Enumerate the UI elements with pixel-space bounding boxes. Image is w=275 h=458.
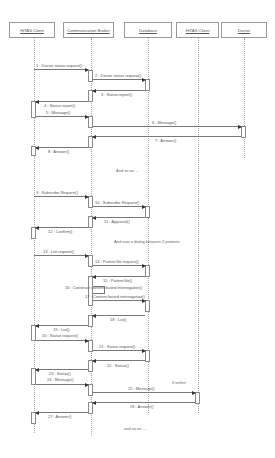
lifeline-doctor	[244, 38, 245, 158]
arrow-right-icon	[85, 383, 89, 387]
actor-label: HiTAS Client	[20, 28, 44, 33]
message-label-9: 9 : Subscribe Request()	[36, 190, 78, 195]
message-arrow-23	[36, 369, 88, 370]
message-arrow-25	[93, 392, 195, 393]
message-label-19: 19 : List()	[53, 327, 70, 332]
message-label-11: 11 : Approval()	[104, 219, 130, 224]
arrow-right-icon	[142, 349, 146, 353]
message-arrow-26	[93, 402, 195, 403]
arrow-left-icon	[92, 275, 96, 279]
arrow-right-icon	[85, 339, 89, 343]
actor-label: HiTAS Client	[186, 28, 210, 33]
message-label-22: 22 : Status()	[107, 363, 129, 368]
message-label-21: 21 : Status request()	[99, 344, 135, 349]
message-arrow-24	[36, 384, 88, 385]
arrow-left-icon	[35, 324, 39, 328]
message-arrow-8	[36, 147, 88, 148]
message-label-14: 14 : Patient file request()	[95, 259, 139, 264]
message-arrow-14	[93, 265, 145, 266]
arrow-left-icon	[35, 368, 39, 372]
message-label-20: 20 : Status request()	[42, 333, 78, 338]
message-label-4: 4 : Status report()	[44, 103, 75, 108]
actor-database: Database	[124, 22, 172, 38]
arrow-right-icon	[238, 125, 242, 129]
note-if-online: If online	[172, 380, 186, 385]
message-label-1: 1 : Doctor status request()	[36, 63, 82, 68]
message-arrow-6	[93, 126, 241, 127]
arrow-right-icon	[142, 78, 146, 82]
message-arrow-12	[36, 227, 88, 228]
arrow-left-icon	[92, 216, 96, 220]
arrow-right-icon	[85, 254, 89, 258]
message-label-24: 24 : Message()	[47, 377, 74, 382]
message-label-3: 3 : Status report()	[101, 92, 132, 97]
message-arrow-5	[36, 116, 88, 117]
arrow-right-icon	[85, 195, 89, 199]
message-label-13: 13 : List request()	[43, 249, 74, 254]
message-label-16: 16 : Construct content-based interrogati…	[65, 285, 142, 290]
arrow-right-icon	[142, 205, 146, 209]
note-and-so-on-2: and so on ...	[124, 426, 146, 431]
message-label-26: 26 : Answer()	[130, 404, 154, 409]
message-arrow-18	[93, 315, 145, 316]
message-arrow-1	[34, 69, 88, 70]
arrow-left-icon	[35, 146, 39, 150]
message-arrow-7	[93, 136, 241, 137]
arrow-right-icon	[85, 68, 89, 72]
message-arrow-2	[93, 79, 145, 80]
message-arrow-9	[34, 196, 88, 197]
message-label-15: 15 : Patient file()	[103, 278, 132, 283]
message-arrow-22	[93, 360, 145, 361]
message-label-8: 8 : Answer()	[48, 149, 69, 154]
actor-hitas-client-2: HiTAS Client	[176, 22, 219, 38]
actor-label: Database	[139, 28, 157, 33]
arrow-left-icon	[92, 314, 96, 318]
arrow-left-icon	[92, 401, 96, 405]
message-label-7: 7 : Answer()	[155, 138, 176, 143]
arrow-right-icon	[142, 264, 146, 268]
message-label-27: 27 : Answer()	[48, 414, 72, 419]
message-label-10: 10 : Subscribe Request()	[95, 200, 139, 205]
arrow-right-icon	[142, 299, 146, 303]
message-arrow-27	[36, 412, 88, 413]
message-arrow-21	[93, 350, 145, 351]
arrow-left-icon	[92, 135, 96, 139]
message-label-5: 5 : Message()	[46, 110, 70, 115]
arrow-right-icon	[192, 391, 196, 395]
message-label-17: 17 : Content-based interrogation()	[85, 294, 145, 299]
activation-box	[88, 70, 93, 82]
message-arrow-20	[34, 340, 88, 341]
arrow-left-icon	[92, 359, 96, 363]
actor-communication-broker: Communication Broker	[63, 22, 114, 38]
arrow-right-icon	[85, 115, 89, 119]
message-label-25: 25 : Message()	[128, 386, 155, 391]
message-arrow-13	[34, 255, 88, 256]
note-and-so-on-1: And so on ...	[116, 168, 138, 173]
message-label-18: 18 : List()	[110, 317, 127, 322]
note-dialog-between-patients: And now a dialog between 2 patients	[114, 239, 179, 244]
sequence-diagram: HiTAS Client Communication Broker Databa…	[0, 0, 275, 458]
actor-label: Communication Broker	[67, 28, 110, 33]
message-arrow-10	[93, 206, 145, 207]
message-label-12: 12 : Confirm()	[48, 229, 72, 234]
actor-hitas-client-1: HiTAS Client	[9, 22, 55, 38]
message-label-23: 23 : Status()	[49, 371, 71, 376]
message-arrow-4	[36, 101, 88, 102]
actor-label: Doctor	[238, 28, 250, 33]
message-arrow-17	[93, 300, 145, 301]
message-arrow-3	[93, 90, 145, 91]
message-label-2: 2 : Doctor status request()	[95, 73, 141, 78]
message-label-6: 6 : Message()	[152, 120, 176, 125]
arrow-left-icon	[92, 89, 96, 93]
arrow-left-icon	[35, 226, 39, 230]
arrow-left-icon	[35, 411, 39, 415]
lifeline-hitas-client-2	[198, 38, 199, 413]
arrow-left-icon	[35, 100, 39, 104]
message-arrow-19	[36, 325, 88, 326]
message-arrow-15	[93, 276, 145, 277]
actor-doctor: Doctor	[221, 22, 267, 38]
message-arrow-11	[93, 217, 145, 218]
